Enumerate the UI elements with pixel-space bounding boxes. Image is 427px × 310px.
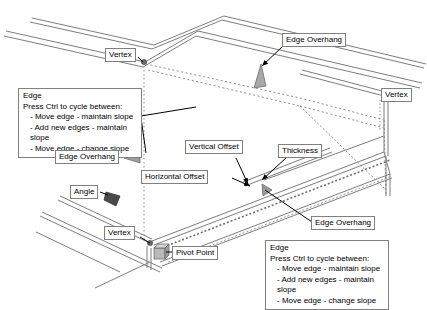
label-pivot-point[interactable]: Pivot Point (172, 246, 218, 260)
edge-callout-bottom-heading: Edge (270, 243, 384, 254)
edge-overhang-wedge-top (254, 64, 266, 88)
label-vertex-right-text: Vertex (385, 90, 408, 99)
leader-edge-overhang-top (262, 46, 283, 66)
label-vertex-bottom-text: Vertex (108, 228, 131, 237)
construction-dashed-lines (144, 62, 392, 262)
label-edge-overhang-right-text: Edge Overhang (315, 218, 371, 227)
label-edge-overhang-left-text: Edge Overhang (59, 152, 115, 161)
label-vertex-right[interactable]: Vertex (381, 88, 412, 102)
label-vertex-top[interactable]: Vertex (105, 48, 136, 62)
label-thickness[interactable]: Thickness (278, 144, 322, 158)
edge-callout-bottom-option-2: - Move edge - change slope (270, 296, 384, 307)
diagram-canvas: Vertex Edge Overhang Vertex Edge Press C… (0, 0, 427, 310)
vertex-marker-top (141, 59, 146, 64)
label-angle[interactable]: Angle (70, 185, 98, 199)
edge-callout-option-0: - Move edge - maintain slope (23, 112, 137, 123)
label-pivot-point-text: Pivot Point (176, 248, 214, 257)
label-vertex-top-text: Vertex (109, 50, 132, 59)
edge-callout-instruction: Press Ctrl to cycle between: (23, 102, 137, 113)
edge-callout-heading: Edge (23, 91, 137, 102)
callout-edge-top-left[interactable]: Edge Press Ctrl to cycle between: - Move… (18, 88, 142, 158)
label-edge-overhang-top[interactable]: Edge Overhang (282, 33, 346, 47)
edge-callout-bottom-instruction: Press Ctrl to cycle between: (270, 254, 384, 265)
label-horizontal-offset[interactable]: Horizontal Offset (141, 170, 208, 184)
edge-callout-bottom-option-0: - Move edge - maintain slope (270, 264, 384, 275)
label-edge-overhang-left[interactable]: Edge Overhang (55, 150, 119, 164)
label-angle-text: Angle (74, 187, 94, 196)
label-vertical-offset-text: Vertical Offset (189, 142, 239, 151)
label-vertex-bottom[interactable]: Vertex (104, 226, 135, 240)
label-edge-overhang-top-text: Edge Overhang (286, 35, 342, 44)
label-thickness-text: Thickness (282, 146, 318, 155)
leader-edge-callout-a (141, 107, 196, 116)
edge-callout-option-1: - Add new edges - maintain slope (23, 123, 137, 144)
label-vertical-offset[interactable]: Vertical Offset (185, 140, 243, 154)
callout-edge-bottom-right[interactable]: Edge Press Ctrl to cycle between: - Move… (265, 240, 389, 310)
label-edge-overhang-right[interactable]: Edge Overhang (311, 216, 375, 230)
label-horizontal-offset-text: Horizontal Offset (145, 172, 204, 181)
edge-callout-bottom-option-1: - Add new edges - maintain slope (270, 275, 384, 296)
